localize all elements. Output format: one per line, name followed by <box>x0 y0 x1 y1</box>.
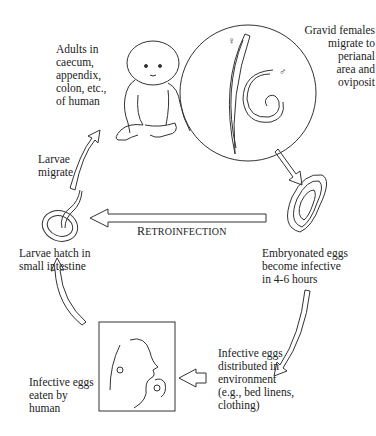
hatching-larva-illustration <box>38 190 82 246</box>
baby-illustration <box>116 41 190 140</box>
egg-illustration <box>288 175 327 232</box>
label-adults: Adults in caecum, appendix, colon, etc.,… <box>56 43 106 108</box>
label-larvae-hatch: Larvae hatch in small intestine <box>19 247 91 273</box>
label-gravid-females: Gravid females migrate to perianal area … <box>278 24 375 89</box>
arrow-to-eaten <box>179 369 206 387</box>
label-larvae-migrate: Larvae migrate <box>38 153 73 179</box>
label-infective-eggs-environment: Infective eggs distributed in environmen… <box>218 347 294 412</box>
human-eating-illustration <box>99 322 175 411</box>
label-retroinfection: RETROINFECTION <box>137 224 227 239</box>
label-embryonated-eggs: Embryonated eggs become infective in 4-6… <box>262 247 348 286</box>
arrow-larvae-migrate <box>70 130 100 190</box>
female-symbol: ♀ <box>228 34 236 47</box>
life-cycle-diagram: Adults in caecum, appendix, colon, etc.,… <box>0 0 376 436</box>
arrow-to-egg <box>275 149 302 185</box>
male-symbol: ♂ <box>279 65 287 78</box>
label-infective-eggs-eaten: Infective eggs eaten by human <box>29 376 94 415</box>
